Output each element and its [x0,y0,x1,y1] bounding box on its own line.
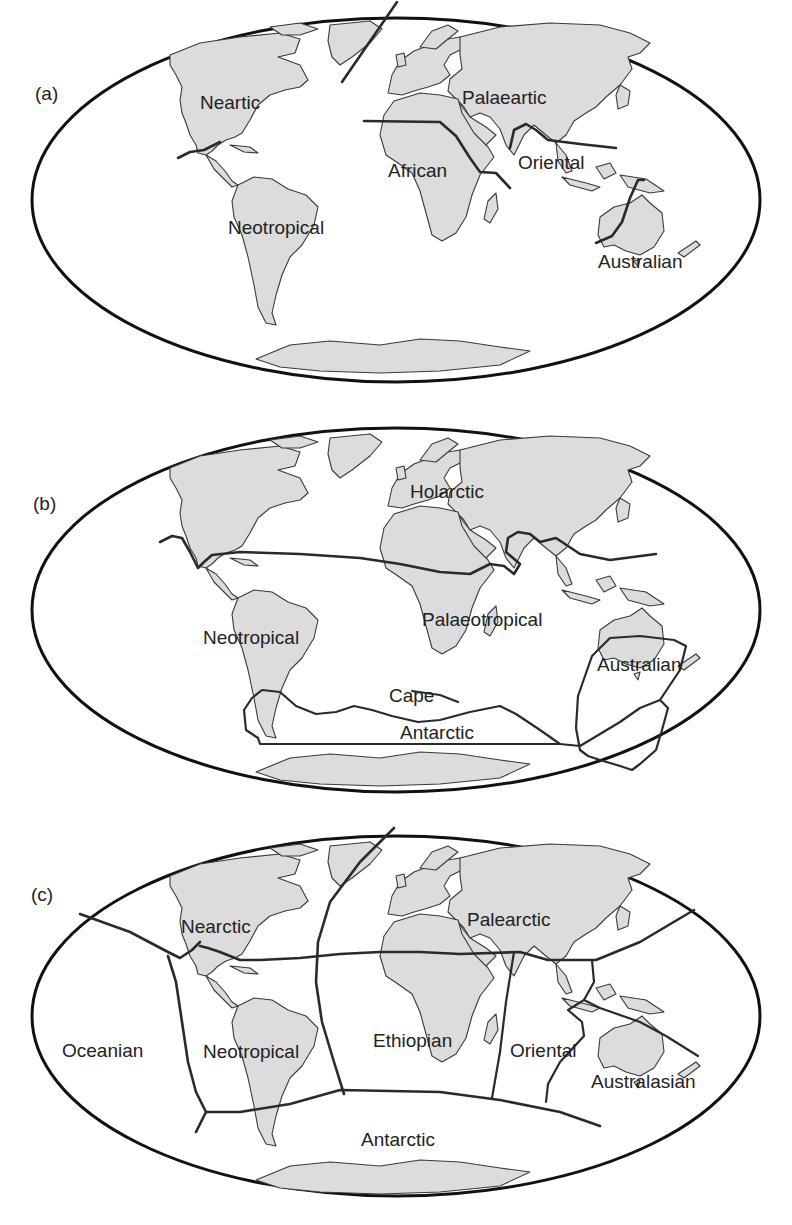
panel-label-a: (a) [35,83,58,105]
region-label-neartic: Neartic [200,93,260,112]
panel-c-map [0,822,792,1225]
region-label-nearctic: Nearctic [181,917,251,936]
panel-a-map [0,0,792,400]
panel-b: (b) Holarctic Neotropical Palaeotropical… [0,410,792,810]
panel-a: (a) Neartic Palaeartic African Oriental … [0,0,792,400]
region-label-palaeartic: Palaeartic [462,88,547,107]
realm-boundary [168,956,206,1132]
region-label-neotropical: Neotropical [203,1042,299,1061]
region-label-oriental: Oriental [518,153,585,172]
region-label-holarctic: Holarctic [410,482,484,501]
region-label-antarctic: Antarctic [400,723,474,742]
region-label-african: African [388,161,447,180]
region-label-neotropical: Neotropical [203,628,299,647]
realm-boundary [546,960,594,1102]
region-label-palearctic: Palearctic [467,910,550,929]
region-label-oceanian: Oceanian [62,1041,143,1060]
region-label-australian: Australian [597,655,682,674]
region-label-australasian: Australasian [591,1072,696,1091]
region-label-palaeotropical: Palaeotropical [422,610,542,629]
region-label-oriental: Oriental [510,1041,577,1060]
panel-c: (c) Nearctic Palearctic Oceanian Neotrop… [0,822,792,1225]
panel-label-c: (c) [31,884,53,906]
region-label-australian: Australian [598,252,683,271]
panel-b-map [0,410,792,810]
region-label-antarctic: Antarctic [361,1130,435,1149]
panel-label-b: (b) [33,493,56,515]
region-label-neotropical: Neotropical [228,218,324,237]
region-label-cape: Cape [389,686,434,705]
region-label-ethiopian: Ethiopian [373,1031,452,1050]
